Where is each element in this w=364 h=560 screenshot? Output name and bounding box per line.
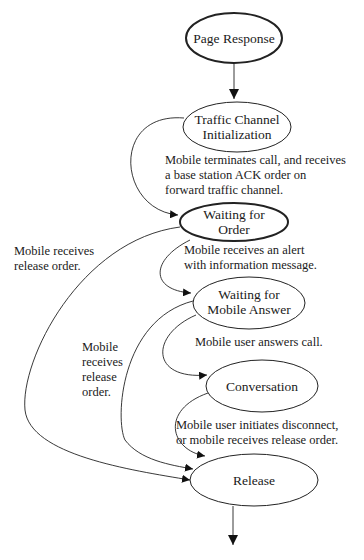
svg-text:a base station ACK order on: a base station ACK order on (165, 168, 307, 182)
edge-label-order-to-release: Mobile receives release order. (14, 244, 94, 273)
node-traffic-channel-initialization: Traffic Channel Initialization (183, 102, 291, 152)
node-label: Order (218, 222, 250, 237)
svg-text:Mobile user initiates disconne: Mobile user initiates disconnect, (176, 418, 338, 432)
node-waiting-for-mobile-answer: Waiting for Mobile Answer (193, 277, 305, 329)
node-label: Waiting for (218, 287, 280, 302)
node-label: Traffic Channel (194, 112, 279, 127)
svg-text:forward traffic channel.: forward traffic channel. (165, 183, 283, 197)
node-label: Waiting for (203, 207, 265, 222)
edge-label-conversation-to-release: Mobile user initiates disconnect, or mob… (176, 418, 338, 447)
node-label: Conversation (226, 379, 298, 394)
svg-text:release order.: release order. (14, 259, 81, 273)
node-page-response: Page Response (186, 13, 282, 63)
node-release: Release (190, 454, 318, 506)
svg-text:Mobile receives: Mobile receives (14, 244, 94, 258)
node-waiting-for-order: Waiting for Order (180, 203, 288, 241)
svg-text:receives: receives (82, 355, 123, 369)
svg-text:Mobile terminates call, and re: Mobile terminates call, and receives (165, 153, 346, 167)
state-diagram: Page Response Traffic Channel Initializa… (0, 0, 364, 560)
node-conversation: Conversation (206, 360, 318, 412)
svg-text:with information message.: with information message. (184, 258, 317, 272)
node-label: Page Response (193, 31, 274, 46)
node-label: Initialization (203, 127, 272, 142)
edge-label-traffic-to-order: Mobile terminates call, and receives a b… (165, 153, 346, 197)
svg-text:or mobile receives release ord: or mobile receives release order. (176, 433, 338, 447)
node-label: Mobile Answer (207, 302, 291, 317)
node-label: Release (233, 473, 275, 488)
edge-label-answer-to-release: Mobile receives release order. (82, 340, 123, 399)
edge-label-answer-to-conversation: Mobile user answers call. (195, 335, 323, 349)
svg-text:order.: order. (82, 385, 111, 399)
svg-text:release: release (82, 370, 117, 384)
svg-text:Mobile user answers call.: Mobile user answers call. (195, 335, 323, 349)
edge-label-order-to-answer: Mobile receives an alert with informatio… (184, 243, 317, 272)
svg-text:Mobile: Mobile (82, 340, 119, 354)
svg-text:Mobile receives an alert: Mobile receives an alert (184, 243, 305, 257)
